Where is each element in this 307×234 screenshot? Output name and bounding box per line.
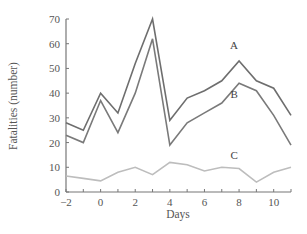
series-line-b bbox=[66, 39, 291, 145]
y-axis-title: Fatalities (number) bbox=[7, 62, 20, 150]
x-tick-label: 6 bbox=[202, 196, 208, 208]
series-line-a bbox=[66, 19, 291, 130]
series-lines bbox=[66, 19, 291, 182]
y-tick-label: 10 bbox=[49, 161, 61, 173]
series-label-c: C bbox=[230, 149, 237, 161]
x-tick-label: 0 bbox=[98, 196, 104, 208]
y-tick-label: 70 bbox=[49, 13, 61, 25]
y-axis: 010203040506070 bbox=[49, 13, 69, 198]
x-tick-label: 10 bbox=[268, 196, 280, 208]
line-chart: 010203040506070 −20246810 ABC Days Fatal… bbox=[0, 0, 307, 234]
x-tick-label: 2 bbox=[132, 196, 138, 208]
x-tick-label: 8 bbox=[236, 196, 242, 208]
series-line-c bbox=[66, 162, 291, 182]
y-tick-label: 50 bbox=[49, 62, 61, 74]
series-labels: ABC bbox=[230, 39, 238, 161]
y-tick-label: 60 bbox=[49, 38, 61, 50]
y-tick-label: 40 bbox=[49, 87, 61, 99]
x-tick-label: −2 bbox=[60, 196, 72, 208]
series-label-b: B bbox=[230, 88, 237, 100]
x-axis: −20246810 bbox=[60, 189, 291, 208]
x-tick-label: 4 bbox=[167, 196, 173, 208]
series-label-a: A bbox=[230, 39, 238, 51]
x-axis-title: Days bbox=[166, 208, 190, 221]
y-tick-label: 30 bbox=[49, 112, 61, 124]
y-tick-label: 20 bbox=[49, 137, 61, 149]
